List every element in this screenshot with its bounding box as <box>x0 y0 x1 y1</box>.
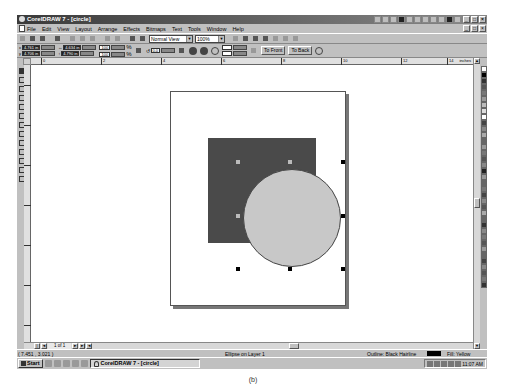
scale-y-spinner[interactable] <box>111 52 125 57</box>
menu-effects[interactable]: Effects <box>123 26 140 32</box>
launcher-icon[interactable] <box>454 16 461 23</box>
y-position-field[interactable]: 4.706 in <box>22 51 40 56</box>
rotation-field[interactable]: 0.0 <box>151 48 161 53</box>
mirror-icon[interactable] <box>178 47 186 55</box>
start-button[interactable]: Start <box>18 359 43 368</box>
clock[interactable]: 11:07 AM <box>462 361 483 367</box>
width-field[interactable]: 4.634 in <box>63 45 81 50</box>
undo-icon[interactable] <box>104 35 112 43</box>
launcher-icon[interactable] <box>382 16 389 23</box>
vertical-ruler[interactable] <box>24 65 31 342</box>
pie-icon[interactable] <box>200 47 208 55</box>
print-icon[interactable] <box>54 35 62 43</box>
height-spinner[interactable] <box>80 51 94 56</box>
options-icon[interactable] <box>292 35 300 43</box>
quick-launch-icon[interactable] <box>72 360 79 367</box>
launcher-icon[interactable] <box>390 16 397 23</box>
rectangle-tool-icon[interactable] <box>18 103 24 110</box>
direction-icon[interactable] <box>250 47 258 55</box>
start-angle-field[interactable] <box>222 45 232 50</box>
whats-this-icon[interactable] <box>272 35 280 43</box>
selection-handle-bottom-left[interactable] <box>236 267 240 271</box>
doc-restore-button[interactable]: □ <box>471 25 478 32</box>
lock-ratio-icon[interactable] <box>135 47 143 55</box>
ruler-origin[interactable] <box>23 58 31 65</box>
x-nudge-spinner[interactable] <box>41 45 55 50</box>
dockers-icon[interactable] <box>262 35 270 43</box>
quick-launch-icon[interactable] <box>54 360 61 367</box>
horizontal-ruler[interactable]: 0 2 4 6 8 10 12 14 inches <box>31 58 473 65</box>
start-angle-spinner[interactable] <box>233 45 247 50</box>
x-position-field[interactable]: 4.761 in <box>22 45 40 50</box>
close-button[interactable]: × <box>479 16 486 23</box>
coreldraw-app-icon[interactable] <box>19 16 25 22</box>
menu-arrange[interactable]: Arrange <box>98 26 118 32</box>
zoom-level-select[interactable]: 100% ▼ <box>195 35 225 43</box>
wireframe-icon[interactable] <box>242 35 250 43</box>
quick-launch-icon[interactable] <box>45 360 52 367</box>
outline-tool-icon[interactable] <box>18 157 24 164</box>
minimize-button[interactable]: _ <box>463 16 470 23</box>
launcher-icon[interactable] <box>406 16 413 23</box>
tray-icon[interactable] <box>448 361 454 367</box>
end-angle-field[interactable] <box>222 51 232 56</box>
export-icon[interactable] <box>139 35 147 43</box>
new-icon[interactable] <box>19 35 27 43</box>
maximize-button[interactable]: □ <box>471 16 478 23</box>
eyedropper-tool-icon[interactable] <box>18 148 24 155</box>
quick-launch-icon[interactable] <box>81 360 88 367</box>
document-icon[interactable] <box>19 25 25 32</box>
ellipse-icon[interactable] <box>189 47 197 55</box>
doc-minimize-button[interactable]: _ <box>463 25 470 32</box>
launcher-icon[interactable] <box>446 16 453 23</box>
to-front-button[interactable]: To Front <box>261 46 285 55</box>
fill-tool-icon[interactable] <box>18 166 24 173</box>
freehand-tool-icon[interactable] <box>18 94 24 101</box>
interactive-fill-tool-icon[interactable] <box>18 139 24 146</box>
doc-close-button[interactable]: × <box>479 25 486 32</box>
scale-x-spinner[interactable] <box>111 45 125 50</box>
save-icon[interactable] <box>39 35 47 43</box>
width-spinner[interactable] <box>82 45 96 50</box>
polygon-tool-icon[interactable] <box>18 121 24 128</box>
scale-y-field[interactable]: 100 <box>99 52 110 57</box>
menu-file[interactable]: File <box>27 26 36 32</box>
shape-tool-icon[interactable] <box>18 76 24 83</box>
view-mode-select[interactable]: Normal View ▼ <box>149 35 193 43</box>
taskbar-item-coreldraw[interactable]: CorelDRAW 7 - [circle] <box>90 359 200 368</box>
selection-handle-top-right[interactable] <box>341 160 345 164</box>
menu-bitmaps[interactable]: Bitmaps <box>146 26 166 32</box>
launcher-icon[interactable] <box>414 16 421 23</box>
menu-view[interactable]: View <box>57 26 69 32</box>
end-angle-spinner[interactable] <box>233 51 247 56</box>
copy-icon[interactable] <box>79 35 87 43</box>
selection-handle-right[interactable] <box>341 214 345 218</box>
extrude-tool-icon[interactable] <box>18 175 24 182</box>
launcher-icon[interactable] <box>374 16 381 23</box>
swatch[interactable] <box>481 282 487 288</box>
tray-icon[interactable] <box>434 361 440 367</box>
zoom-icon[interactable] <box>232 35 240 43</box>
vertical-scrollbar[interactable]: ▲ ▼ <box>473 58 480 349</box>
menu-text[interactable]: Text <box>172 26 182 32</box>
redo-icon[interactable] <box>114 35 122 43</box>
launcher-icon[interactable] <box>422 16 429 23</box>
menu-layout[interactable]: Layout <box>75 26 92 32</box>
import-icon[interactable] <box>129 35 137 43</box>
arc-icon[interactable] <box>211 47 219 55</box>
scale-x-field[interactable]: 100 <box>99 45 110 50</box>
rotation-spinner[interactable] <box>161 48 175 53</box>
zoom-tool-icon[interactable] <box>18 85 24 92</box>
menu-window[interactable]: Window <box>207 26 227 32</box>
launcher-icon[interactable] <box>398 16 405 23</box>
tray-icon[interactable] <box>441 361 447 367</box>
ellipse-object[interactable] <box>243 169 341 267</box>
quick-launch-icon[interactable] <box>63 360 70 367</box>
convert-to-curves-icon[interactable] <box>315 47 323 55</box>
menu-help[interactable]: Help <box>232 26 243 32</box>
open-icon[interactable] <box>29 35 37 43</box>
ellipse-tool-icon[interactable] <box>18 112 24 119</box>
launcher-icon[interactable] <box>438 16 445 23</box>
tray-icon[interactable] <box>427 361 433 367</box>
paste-icon[interactable] <box>89 35 97 43</box>
